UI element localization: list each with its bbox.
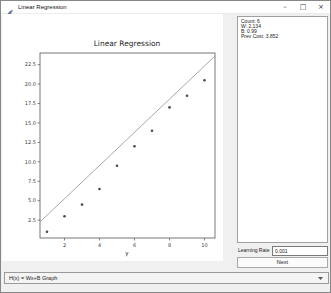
y-tick-label: 2.5 bbox=[28, 217, 36, 223]
graph-type-dropdown[interactable]: H(x) = Wx+B Graph bbox=[4, 272, 329, 284]
data-point bbox=[168, 106, 171, 109]
data-point bbox=[46, 230, 49, 233]
next-button[interactable]: Next bbox=[237, 257, 328, 268]
x-axis-label: y bbox=[125, 250, 129, 257]
data-point bbox=[63, 215, 66, 218]
data-point bbox=[186, 94, 189, 97]
y-tick-label: 22.5 bbox=[25, 61, 36, 67]
x-tick-label: 8 bbox=[168, 242, 171, 248]
y-tick-label: 10.0 bbox=[25, 159, 36, 165]
data-point bbox=[81, 203, 84, 206]
regression-line bbox=[40, 56, 215, 222]
x-tick-label: 10 bbox=[201, 242, 207, 248]
y-tick-label: 17.5 bbox=[25, 100, 36, 106]
stats-panel: Count: 6 W: 2.134 B: 0.99 Prev Cost: 3.8… bbox=[237, 16, 328, 243]
stat-prev-cost: Prev Cost: 3.852 bbox=[241, 34, 324, 39]
learning-rate-input[interactable] bbox=[272, 246, 328, 256]
chart-figure: Linear Regression 2468102.55.07.510.012.… bbox=[2, 14, 223, 261]
graph-type-value: H(x) = Wx+B Graph bbox=[9, 275, 317, 281]
data-point bbox=[151, 129, 154, 132]
window-title: Linear Regression bbox=[18, 1, 67, 14]
x-tick-label: 2 bbox=[63, 242, 66, 248]
chart-title: Linear Regression bbox=[94, 39, 161, 48]
learning-rate-label: Learning Rate bbox=[238, 245, 269, 256]
x-tick-label: 4 bbox=[98, 242, 101, 248]
data-point bbox=[133, 145, 136, 148]
minimize-button[interactable]: – bbox=[276, 1, 294, 14]
chevron-down-icon bbox=[317, 276, 324, 281]
x-tick-label: 6 bbox=[133, 242, 136, 248]
data-point bbox=[98, 188, 101, 191]
y-tick-label: 15.0 bbox=[25, 120, 36, 126]
chart-svg: Linear Regression 2468102.55.07.510.012.… bbox=[2, 14, 223, 261]
titlebar: Linear Regression – □ × bbox=[1, 1, 330, 14]
tk-feather-icon bbox=[6, 3, 14, 11]
y-tick-label: 20.0 bbox=[25, 81, 36, 87]
close-button[interactable]: × bbox=[312, 1, 330, 14]
data-point bbox=[203, 79, 206, 82]
chart-plot: 2468102.55.07.510.012.515.017.520.022.5 bbox=[25, 53, 215, 248]
app-window: Linear Regression – □ × Linear Regressio… bbox=[0, 0, 331, 293]
data-point bbox=[116, 164, 119, 167]
window-controls: – □ × bbox=[276, 1, 330, 14]
maximize-button[interactable]: □ bbox=[294, 1, 312, 14]
y-tick-label: 7.5 bbox=[28, 178, 36, 184]
y-tick-label: 12.5 bbox=[25, 139, 36, 145]
y-tick-label: 5.0 bbox=[28, 197, 36, 203]
